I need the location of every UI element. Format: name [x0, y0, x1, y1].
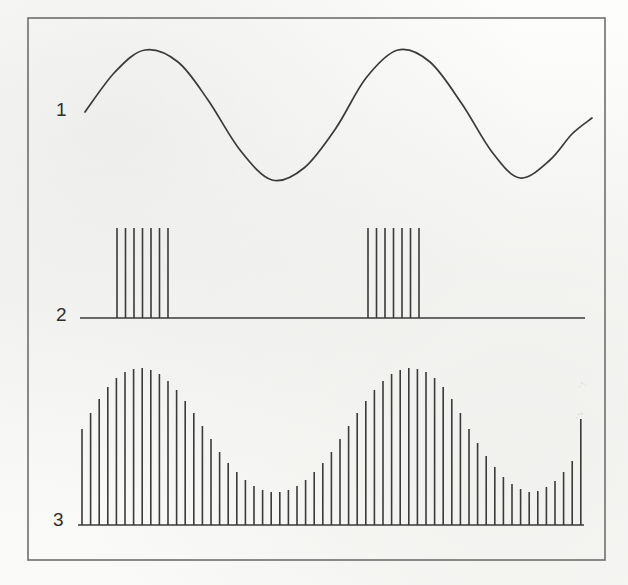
figure-root: 1 2 3 ·˚· ·˚˚	[0, 0, 628, 585]
sine-wave-path	[85, 49, 592, 180]
row-label-3: 3	[53, 510, 64, 529]
figure-border	[28, 18, 605, 560]
waveform-diagram	[0, 0, 628, 585]
row-label-1: 1	[56, 100, 67, 119]
pulse-burst-group	[117, 228, 419, 318]
row-label-2: 2	[56, 305, 67, 324]
sampled-bar-group	[82, 368, 581, 525]
